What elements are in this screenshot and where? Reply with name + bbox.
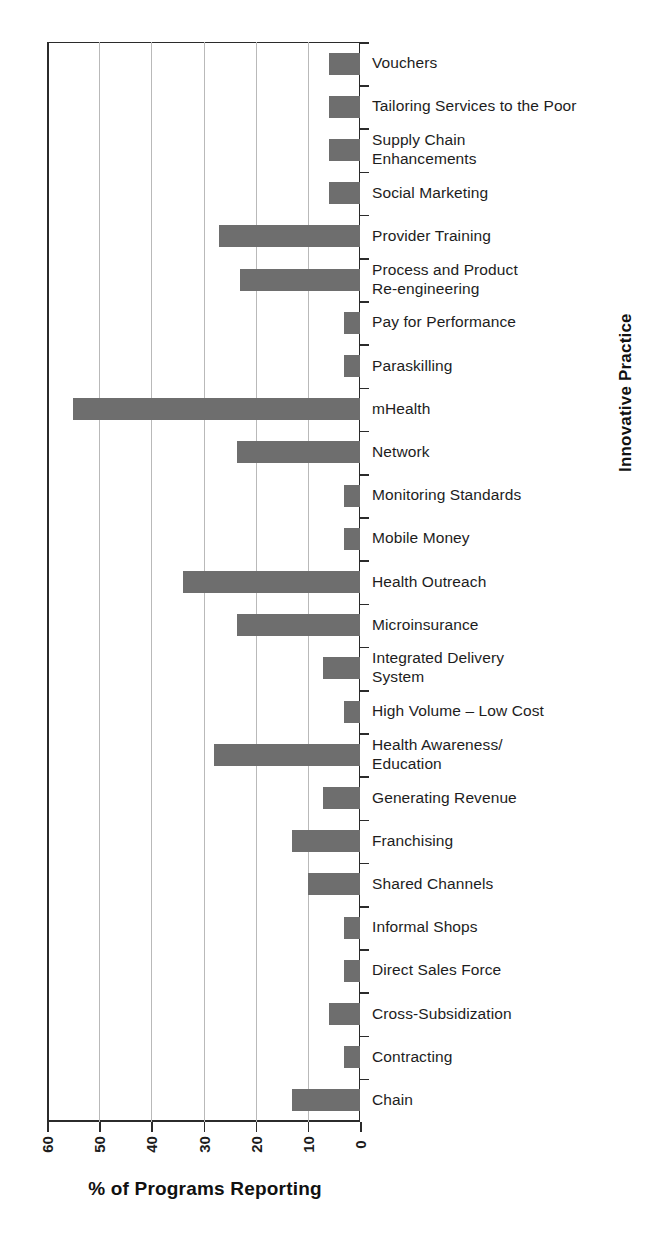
category-tick: [360, 388, 369, 390]
category-tick: [360, 42, 369, 44]
category-tick: [360, 301, 369, 303]
category-tick: [360, 992, 369, 994]
category-tick: [360, 906, 369, 908]
bar: [292, 1089, 360, 1111]
category-label: Process and Product Re-engineering: [372, 260, 518, 298]
category-label: Cross-Subsidization: [372, 1004, 512, 1023]
category-tick: [360, 604, 369, 606]
category-label: Supply Chain Enhancements: [372, 130, 477, 168]
category-tick: [360, 258, 369, 260]
category-tick: [360, 85, 369, 87]
category-tick: [360, 776, 369, 778]
y-axis-title: Innovative Practice: [616, 313, 636, 472]
bar: [344, 701, 360, 723]
category-label: Provider Training: [372, 226, 491, 245]
category-label: Informal Shops: [372, 917, 478, 936]
x-tick-label-10: 10: [299, 1128, 316, 1162]
category-label: Monitoring Standards: [372, 485, 521, 504]
bar: [344, 1046, 360, 1068]
bar: [240, 269, 360, 291]
bar: [344, 312, 360, 334]
category-label: Shared Channels: [372, 874, 493, 893]
category-tick: [360, 733, 369, 735]
category-label: Mobile Money: [372, 528, 470, 547]
category-tick: [360, 820, 369, 822]
bar: [308, 873, 360, 895]
bar: [323, 787, 360, 809]
category-label: Franchising: [372, 831, 453, 850]
bar: [344, 917, 360, 939]
category-tick: [360, 949, 369, 951]
category-label: Chain: [372, 1090, 413, 1109]
category-tick: [360, 172, 369, 174]
x-tick-label-20: 20: [247, 1128, 264, 1162]
bar: [219, 225, 360, 247]
category-tick: [360, 560, 369, 562]
category-tick: [360, 344, 369, 346]
category-label: Tailoring Services to the Poor: [372, 96, 577, 115]
bar: [344, 355, 360, 377]
bar: [214, 744, 360, 766]
gridline-40: [151, 42, 152, 1122]
bar: [183, 571, 360, 593]
category-label: High Volume – Low Cost: [372, 701, 544, 720]
x-tick-label-0: 0: [352, 1128, 369, 1162]
category-tick: [360, 474, 369, 476]
bar: [237, 614, 360, 636]
category-label: Microinsurance: [372, 615, 479, 634]
category-label: Social Marketing: [372, 183, 488, 202]
bar: [329, 182, 360, 204]
chart-figure: VouchersTailoring Services to the PoorSu…: [0, 0, 663, 1242]
category-label: Health Awareness/ Education: [372, 735, 503, 773]
category-tick: [360, 863, 369, 865]
category-label: Paraskilling: [372, 356, 452, 375]
category-label: Network: [372, 442, 430, 461]
bar: [73, 398, 360, 420]
bar: [323, 657, 360, 679]
bar: [344, 485, 360, 507]
category-tick: [360, 647, 369, 649]
category-tick: [360, 128, 369, 130]
x-axis-title: % of Programs Reporting: [47, 1178, 363, 1200]
x-tick-label-50: 50: [91, 1128, 108, 1162]
x-tick-label-60: 60: [39, 1128, 56, 1162]
x-tick-label-30: 30: [195, 1128, 212, 1162]
category-tick: [360, 215, 369, 217]
category-label: Contracting: [372, 1047, 452, 1066]
category-label: Integrated Delivery System: [372, 648, 504, 686]
category-label: Pay for Performance: [372, 312, 516, 331]
category-label: Direct Sales Force: [372, 960, 501, 979]
category-label: Vouchers: [372, 53, 437, 72]
category-label: Generating Revenue: [372, 788, 517, 807]
x-tick-label-40: 40: [143, 1128, 160, 1162]
bar: [237, 441, 360, 463]
category-tick: [360, 431, 369, 433]
bar: [329, 96, 360, 118]
bar: [329, 53, 360, 75]
bar: [344, 528, 360, 550]
bar: [292, 830, 360, 852]
bar: [329, 139, 360, 161]
category-label: Health Outreach: [372, 572, 486, 591]
category-tick: [360, 517, 369, 519]
gridline-50: [99, 42, 100, 1122]
bar: [329, 1003, 360, 1025]
bar: [344, 960, 360, 982]
category-tick: [360, 1079, 369, 1081]
category-tick: [360, 690, 369, 692]
category-tick: [360, 1036, 369, 1038]
category-label: mHealth: [372, 399, 430, 418]
